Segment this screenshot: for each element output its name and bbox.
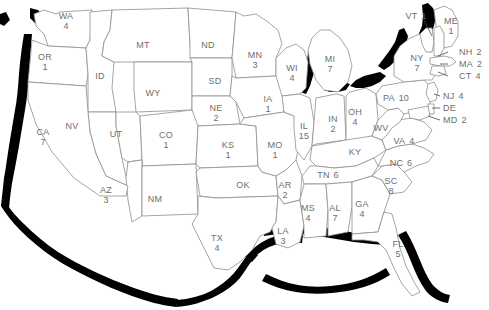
us-map-svg: .st{fill:#ffffff;stroke:#8e8e8e;stroke-w… [0,0,489,310]
us-map-figure: .st{fill:#ffffff;stroke:#8e8e8e;stroke-w… [0,0,489,310]
